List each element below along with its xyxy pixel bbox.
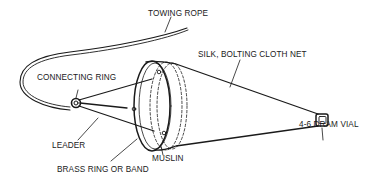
label-pointers: [76, 17, 323, 161]
label-leader: LEADER: [52, 142, 85, 150]
label-towing-rope: TOWING ROPE: [148, 10, 208, 18]
label-brass-ring: BRASS RING OR BAND: [57, 166, 149, 174]
plankton-net-diagram: TOWING ROPE SILK, BOLTING CLOTH NET CONN…: [0, 0, 373, 184]
label-vial: 4-6 DRAM VIAL: [299, 121, 359, 129]
label-muslin: MUSLIN: [152, 155, 184, 163]
muslin-band: [150, 62, 187, 150]
net-illustration: [0, 0, 373, 184]
silk-net-cone: [146, 61, 318, 150]
leader-lines: [79, 79, 154, 131]
label-connecting-ring: CONNECTING RING: [37, 74, 116, 82]
label-silk-net: SILK, BOLTING CLOTH NET: [198, 51, 307, 59]
